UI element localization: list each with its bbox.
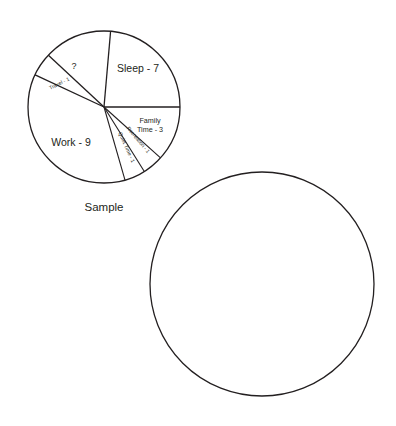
worksheet-canvas: Sleep - 7 Family Time - 3 Recreation - 1… — [0, 0, 396, 426]
pie-chart: Sleep - 7 Family Time - 3 Recreation - 1… — [28, 31, 180, 213]
pie-divider-4 — [35, 75, 104, 107]
pie-slice-label-work: Work - 9 — [51, 136, 91, 148]
pie-slice-label-sleep: Sleep - 7 — [117, 62, 159, 74]
pie-slice-label-family-time-line2: Time - 3 — [137, 125, 163, 134]
empty-circle — [150, 172, 374, 396]
sample-caption: Sample — [85, 201, 124, 213]
empty-circle-group — [150, 172, 374, 396]
pie-divider-6 — [104, 31, 111, 107]
pie-slice-label-travel: Travel - 1 — [48, 76, 70, 91]
pie-slice-label-family-time-line1: Family — [139, 116, 161, 125]
pie-divider-3 — [104, 107, 125, 180]
pie-slice-label-unknown: ? — [71, 61, 76, 71]
